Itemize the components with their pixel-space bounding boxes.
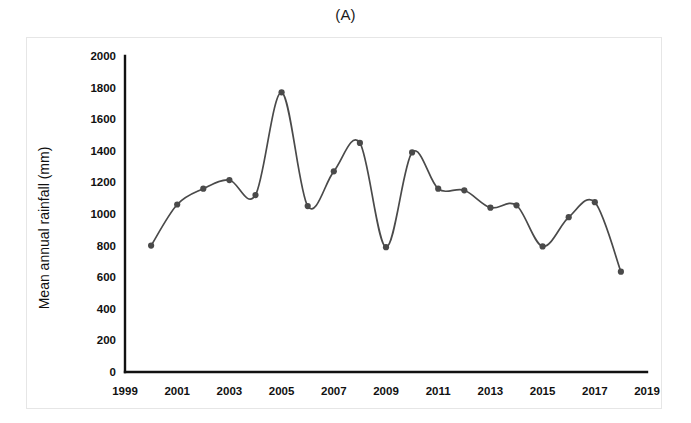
rainfall-figure: (A) Mean annual rainfall (mm) 0200400600… xyxy=(0,0,691,423)
x-tick-label: 2007 xyxy=(321,385,347,397)
x-tick-label: 2011 xyxy=(426,385,452,397)
y-tick-label: 1400 xyxy=(90,145,116,157)
y-tick-label: 600 xyxy=(97,271,116,283)
y-tick-label: 1000 xyxy=(90,208,116,220)
data-point xyxy=(383,244,389,250)
x-tick-label: 2015 xyxy=(530,385,556,397)
rainfall-line-chart: Mean annual rainfall (mm) 02004006008001… xyxy=(27,38,661,408)
data-point xyxy=(148,243,154,249)
data-point xyxy=(618,269,624,275)
y-axis-label-text: Mean annual rainfall (mm) xyxy=(36,147,52,310)
data-point xyxy=(226,177,232,183)
x-tick-label: 2001 xyxy=(164,385,190,397)
x-tick-label: 2019 xyxy=(634,385,660,397)
y-axis-label: Mean annual rainfall (mm) xyxy=(36,147,52,310)
y-tick-label: 200 xyxy=(97,334,116,346)
y-tick-label: 0 xyxy=(110,366,116,378)
data-point xyxy=(252,192,258,198)
panel-label: (A) xyxy=(0,6,691,23)
y-tick-label: 1200 xyxy=(90,176,116,188)
x-tick-label: 2017 xyxy=(582,385,608,397)
data-point xyxy=(487,205,493,211)
data-point xyxy=(331,168,337,174)
y-tick-label: 800 xyxy=(97,240,116,252)
y-tick-label: 2000 xyxy=(90,50,116,62)
data-point xyxy=(409,149,415,155)
data-point xyxy=(174,201,180,207)
data-point xyxy=(435,186,441,192)
data-point xyxy=(592,199,598,205)
data-point xyxy=(200,186,206,192)
y-tick-label: 1800 xyxy=(90,82,116,94)
x-axis-tick-labels: 1999200120032005200720092011201320152017… xyxy=(112,385,660,397)
data-point xyxy=(513,202,519,208)
data-point xyxy=(357,140,363,146)
y-tick-label: 400 xyxy=(97,303,116,315)
data-point xyxy=(461,187,467,193)
x-tick-label: 2003 xyxy=(217,385,243,397)
x-tick-label: 2013 xyxy=(478,385,504,397)
x-tick-label: 2005 xyxy=(269,385,295,397)
y-axis-tick-labels: 0200400600800100012001400160018002000 xyxy=(90,50,116,378)
chart-frame: Mean annual rainfall (mm) 02004006008001… xyxy=(26,37,662,409)
data-point xyxy=(540,243,546,249)
data-point xyxy=(305,203,311,209)
x-tick-label: 1999 xyxy=(112,385,138,397)
x-tick-label: 2009 xyxy=(373,385,399,397)
y-tick-label: 1600 xyxy=(90,113,116,125)
data-point xyxy=(566,214,572,220)
data-point xyxy=(279,89,285,95)
